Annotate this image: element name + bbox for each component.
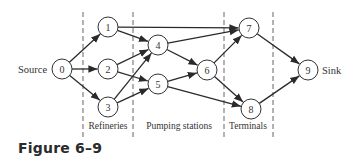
edge-6-8 — [215, 77, 244, 102]
node-label: 7 — [247, 23, 252, 34]
node-label: 9 — [306, 65, 311, 76]
nodes: 0123456789 — [52, 17, 318, 119]
edge-6-7 — [214, 35, 242, 63]
edge-1-7 — [118, 27, 239, 28]
node-6: 6 — [197, 60, 217, 80]
node-9: 9 — [298, 60, 318, 80]
stage-label-refineries: Refineries — [88, 121, 127, 131]
node-8: 8 — [241, 99, 261, 119]
node-5: 5 — [148, 74, 168, 94]
node-label: 3 — [106, 102, 111, 113]
node-1: 1 — [98, 17, 118, 37]
node-label: 4 — [156, 40, 161, 51]
edge-0-1 — [69, 34, 100, 62]
stage-labels: RefineriesPumping stationsTerminals — [88, 121, 267, 131]
node-3: 3 — [98, 97, 118, 117]
edge-8-9 — [259, 76, 299, 104]
node-4: 4 — [148, 35, 168, 55]
node-0: 0 — [52, 59, 72, 79]
sink-label: Sink — [322, 65, 342, 76]
node-label: 2 — [106, 64, 111, 75]
edge-4-7 — [168, 30, 239, 43]
node-label: 1 — [106, 22, 111, 33]
stage-label-pumping-stations: Pumping stations — [146, 121, 212, 131]
source-label: Source — [18, 64, 47, 75]
edge-5-6 — [168, 73, 197, 81]
node-label: 8 — [249, 104, 254, 115]
figure-caption: Figure 6–9 — [18, 140, 102, 156]
node-label: 0 — [60, 64, 65, 75]
node-2: 2 — [98, 59, 118, 79]
edge-7-9 — [257, 34, 299, 64]
edge-4-6 — [167, 50, 198, 66]
node-label: 6 — [205, 65, 210, 76]
node-7: 7 — [239, 18, 259, 38]
stage-label-terminals: Terminals — [229, 121, 267, 131]
node-label: 5 — [156, 79, 161, 90]
edge-0-3 — [70, 75, 100, 100]
